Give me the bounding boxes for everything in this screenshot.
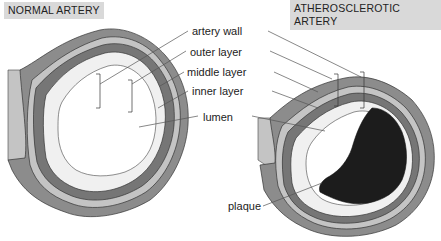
label-artery-wall: artery wall <box>192 25 242 37</box>
leader-middle-layer-right <box>274 72 318 92</box>
label-outer-layer: outer layer <box>190 46 242 58</box>
leader-artery-wall-right <box>268 31 361 77</box>
leader-outer-layer-right <box>270 51 332 79</box>
atherosclerotic-artery <box>258 72 434 236</box>
label-lumen: lumen <box>203 111 233 123</box>
label-plaque: plaque <box>228 200 261 212</box>
label-inner-layer: inner layer <box>192 85 243 97</box>
label-middle-layer: middle layer <box>187 66 246 78</box>
